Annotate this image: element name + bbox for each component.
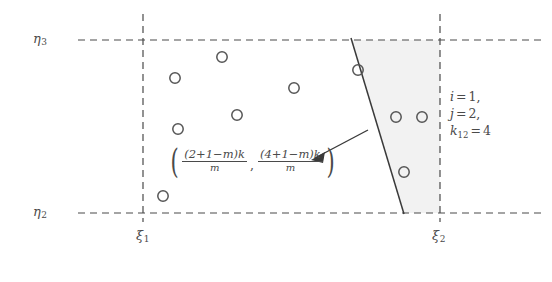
formula-first-denominator: m (210, 162, 219, 174)
axis-label-xi2: ξ2 (432, 228, 445, 244)
axis-label-eta2-symbol: η (33, 204, 41, 219)
param-k-symbol: k (450, 123, 458, 138)
data-point (217, 52, 227, 62)
param-k-subscript: 12 (458, 130, 469, 140)
axis-label-eta3-symbol: η (33, 31, 41, 46)
formula-separator: , (248, 157, 257, 174)
param-k-value: 4 (483, 123, 491, 138)
param-i-equals: = (454, 89, 468, 104)
parameter-annotation: i=1, j=2, k12=4 (450, 88, 491, 144)
axis-label-eta2: η2 (33, 204, 47, 220)
axis-label-eta2-subscript: 2 (41, 210, 47, 220)
data-point (170, 73, 180, 83)
axis-label-eta3-subscript: 3 (41, 37, 47, 47)
param-j-value: 2, (468, 106, 480, 121)
param-i-value: 1, (468, 89, 480, 104)
coordinate-annotation: ( (2+1−m)k m , (4+1−m)k m ) (168, 148, 337, 174)
axis-label-xi1: ξ1 (136, 228, 149, 244)
formula-first-numerator: (2+1−m)k (182, 148, 247, 162)
param-j-equals: = (454, 106, 468, 121)
axis-label-eta3: η3 (33, 31, 47, 47)
data-point (289, 83, 299, 93)
formula-second-denominator: m (286, 162, 295, 174)
param-line-i: i=1, (450, 88, 491, 105)
data-point (158, 191, 168, 201)
data-point (232, 110, 242, 120)
formula-second-numerator: (4+1−m)k (258, 148, 323, 162)
param-line-k12: k12=4 (450, 122, 491, 144)
formula-fraction-second: (4+1−m)k m (258, 148, 323, 174)
data-point (173, 124, 183, 134)
axis-label-xi1-subscript: 1 (143, 234, 149, 244)
param-line-j: j=2, (450, 105, 491, 122)
formula-fraction-first: (2+1−m)k m (182, 148, 247, 174)
figure-canvas: η3 η2 ξ1 ξ2 i=1, j=2, k12=4 ( (2+1−m)k m… (0, 0, 552, 282)
axis-label-xi2-subscript: 2 (439, 234, 445, 244)
param-k-equals: = (468, 123, 482, 138)
